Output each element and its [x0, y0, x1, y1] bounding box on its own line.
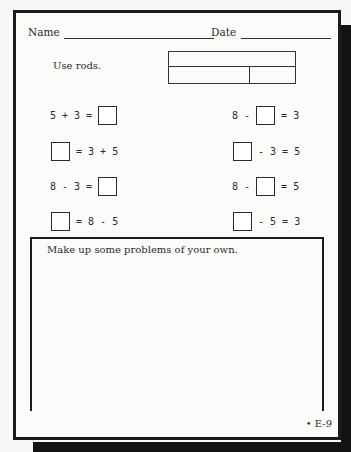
equation-text: = 8 - 5 — [70, 216, 118, 227]
problem-right-4: - 5 = 3 — [233, 212, 300, 231]
equation-text: - 5 = 3 — [252, 216, 300, 227]
answer-box[interactable] — [98, 177, 117, 196]
page-shadow-bottom — [33, 442, 351, 452]
own-problems-prompt: Make up some problems of your own. — [47, 244, 238, 255]
answer-box[interactable] — [98, 106, 117, 125]
name-label: Name — [28, 26, 60, 38]
problem-right-3: 8 - = 5 — [232, 177, 299, 196]
rods-divider-horizontal — [169, 66, 295, 67]
page-shadow-right — [341, 25, 351, 452]
rods-divider-vertical — [249, 67, 250, 83]
answer-box[interactable] — [233, 142, 252, 161]
page-number: • E-9 — [306, 418, 332, 429]
answer-box[interactable] — [233, 212, 252, 231]
equation-text: - 3 = 5 — [252, 146, 300, 157]
equation-text: 5 + 3 = — [50, 110, 98, 121]
answer-box[interactable] — [51, 142, 70, 161]
own-problems-area[interactable]: Make up some problems of your own. — [30, 237, 324, 411]
equation-text: = 5 — [275, 181, 299, 192]
problem-right-1: 8 - = 3 — [232, 106, 299, 125]
instruction-text: Use rods. — [53, 60, 101, 71]
answer-box[interactable] — [256, 177, 275, 196]
date-label: Date — [211, 26, 236, 38]
problem-left-1: 5 + 3 = — [50, 106, 117, 125]
answer-box[interactable] — [256, 106, 275, 125]
problem-left-2: = 3 + 5 — [51, 142, 118, 161]
equation-text: = 3 + 5 — [70, 146, 118, 157]
problem-left-3: 8 - 3 = — [50, 177, 117, 196]
equation-text: 8 - — [232, 181, 256, 192]
problem-right-2: - 3 = 5 — [233, 142, 300, 161]
date-field[interactable] — [241, 38, 331, 39]
problem-left-4: = 8 - 5 — [51, 212, 118, 231]
rods-diagram — [168, 51, 296, 84]
name-field[interactable] — [64, 38, 214, 39]
equation-text: 8 - 3 = — [50, 181, 98, 192]
equation-text: 8 - — [232, 110, 256, 121]
answer-box[interactable] — [51, 212, 70, 231]
equation-text: = 3 — [275, 110, 299, 121]
worksheet: Name Date Use rods. 5 + 3 = = 3 + 5 8 - … — [13, 10, 341, 440]
